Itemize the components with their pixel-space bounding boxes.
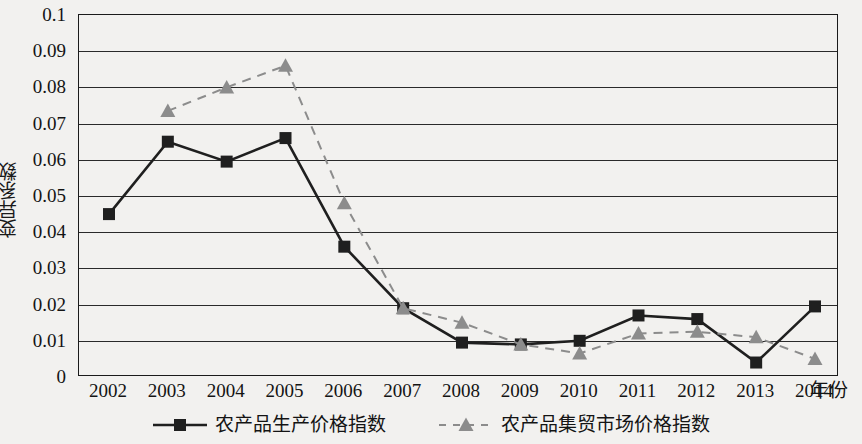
legend-item-1[interactable]: 农产品生产价格指数 — [152, 414, 386, 436]
y-tick-label: 0.02 — [33, 294, 66, 313]
x-tick-label: 2009 — [501, 380, 539, 402]
x-tick-label: 2013 — [736, 380, 774, 402]
series-line-1 — [109, 138, 815, 362]
y-tick-label: 0.09 — [33, 41, 66, 60]
y-tick-label: 0.03 — [33, 258, 66, 277]
series-line-2 — [168, 66, 815, 359]
data-point-marker — [162, 136, 174, 148]
x-tick-label: 2012 — [677, 380, 715, 402]
y-tick-label: 0.07 — [33, 113, 66, 132]
x-tick-label: 2006 — [324, 380, 362, 402]
variation-coefficient-line-chart: 变异系数 00.010.020.030.040.050.060.070.080.… — [0, 0, 862, 444]
triangle-marker — [438, 416, 494, 434]
legend-item-2[interactable]: 农产品集贸市场价格指数 — [438, 414, 710, 436]
series-layer — [79, 15, 839, 377]
legend-label: 农产品生产价格指数 — [215, 414, 386, 436]
data-point-marker — [219, 80, 234, 94]
x-tick-label: 2002 — [89, 380, 127, 402]
square-marker — [152, 416, 208, 434]
y-tick-label: 0 — [57, 367, 67, 386]
chart-legend: 农产品生产价格指数农产品集贸市场价格指数 — [0, 409, 862, 441]
x-tick-label: 2004 — [207, 380, 245, 402]
data-point-marker — [456, 337, 468, 349]
x-tick-label: 2011 — [619, 380, 656, 402]
plot-area — [78, 14, 838, 376]
data-point-marker — [338, 241, 350, 253]
legend-label: 农产品集贸市场价格指数 — [501, 414, 710, 436]
y-tick-label: 0.05 — [33, 186, 66, 205]
data-point-marker — [278, 58, 293, 72]
y-tick-label: 0.1 — [42, 5, 66, 24]
data-point-marker — [808, 351, 823, 365]
y-tick-label: 0.08 — [33, 77, 66, 96]
y-axis-tick-labels: 00.010.020.030.040.050.060.070.080.090.1 — [0, 0, 72, 444]
x-tick-label: 2003 — [148, 380, 186, 402]
data-point-marker — [280, 132, 292, 144]
x-tick-label: 2005 — [266, 380, 304, 402]
data-point-marker — [574, 335, 586, 347]
data-point-marker — [633, 309, 645, 321]
y-tick-label: 0.01 — [33, 330, 66, 349]
x-tick-label: 2007 — [383, 380, 421, 402]
data-point-marker — [809, 300, 821, 312]
data-point-marker — [337, 196, 352, 210]
data-point-marker — [221, 156, 233, 168]
x-axis-title: 年份 — [810, 380, 848, 402]
data-point-marker — [750, 357, 762, 369]
x-tick-label: 2008 — [442, 380, 480, 402]
data-point-marker — [691, 313, 703, 325]
x-axis-tick-labels: 2002200320042005200620072008200920102011… — [78, 380, 838, 406]
y-tick-label: 0.06 — [33, 149, 66, 168]
data-point-marker — [160, 103, 175, 117]
y-tick-label: 0.04 — [33, 222, 66, 241]
data-point-marker — [103, 208, 115, 220]
x-tick-label: 2010 — [560, 380, 598, 402]
